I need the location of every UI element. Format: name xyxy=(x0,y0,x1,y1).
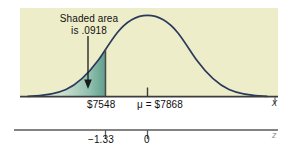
z-axis-tick-label-zero: 0 xyxy=(144,134,150,145)
x-axis-tick-label-mean: μ = $7868 xyxy=(137,99,183,110)
annotation-line-2: is .0918 xyxy=(71,25,107,36)
x-axis-tick-label-cutoff: $7548 xyxy=(87,99,115,110)
z-axis-label: z xyxy=(272,130,277,140)
x-axis-label: x xyxy=(272,97,277,108)
z-axis-tick-label-neg: −1.33 xyxy=(88,134,114,145)
annotation-line-1: Shaded area xyxy=(60,13,118,24)
shaded-area-annotation: Shaded area is .0918 xyxy=(48,13,130,36)
annotation-arrow xyxy=(84,36,92,89)
normal-distribution-figure: Shaded area is .0918 $7548 μ = $7868 x −… xyxy=(0,0,293,165)
x-axis-label-text: x xyxy=(272,97,277,108)
